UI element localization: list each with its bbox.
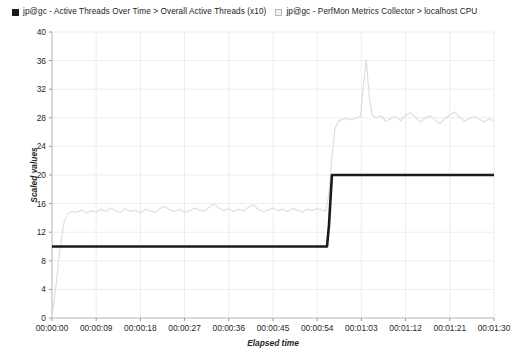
x-tick-label: 00:01:12	[389, 324, 422, 332]
hollow-square-icon	[275, 9, 282, 16]
y-tick-label: 4	[41, 285, 46, 293]
axis-frame	[49, 32, 494, 321]
y-tick-label: 0	[41, 314, 46, 322]
x-tick-label: 00:00:27	[168, 324, 201, 332]
chart-container: jp@gc - Active Threads Over Time > Overa…	[0, 0, 529, 357]
x-tick-label: 00:01:30	[478, 324, 511, 332]
y-tick-label: 8	[41, 257, 46, 265]
x-tick-label: 00:01:03	[345, 324, 378, 332]
filled-square-icon	[12, 9, 19, 16]
legend-entry-perfmon-cpu[interactable]: jp@gc - PerfMon Metrics Collector > loca…	[275, 8, 477, 16]
plot-svg	[0, 22, 529, 357]
x-tick-label: 00:00:36	[212, 324, 245, 332]
legend-entry-active-threads[interactable]: jp@gc - Active Threads Over Time > Overa…	[12, 8, 266, 16]
plot-area: 048121620242832364000:00:0000:00:0900:00…	[0, 22, 529, 357]
y-tick-label: 36	[37, 56, 46, 64]
y-tick-label: 28	[37, 114, 46, 122]
chart-legend: jp@gc - Active Threads Over Time > Overa…	[12, 8, 477, 16]
x-tick-label: 00:00:54	[301, 324, 334, 332]
x-axis-title: Elapsed time	[247, 338, 299, 348]
x-tick-label: 00:00:18	[124, 324, 157, 332]
x-tick-label: 00:00:09	[80, 324, 113, 332]
y-tick-label: 12	[37, 228, 46, 236]
y-tick-label: 40	[37, 28, 46, 36]
x-tick-label: 00:00:00	[36, 324, 69, 332]
y-tick-label: 32	[37, 85, 46, 93]
x-tick-label: 00:01:21	[433, 324, 466, 332]
y-axis-title: Scaled values	[29, 147, 39, 202]
legend-label-active-threads: jp@gc - Active Threads Over Time > Overa…	[23, 8, 266, 16]
legend-label-perfmon-cpu: jp@gc - PerfMon Metrics Collector > loca…	[286, 8, 477, 16]
x-tick-label: 00:00:45	[257, 324, 290, 332]
